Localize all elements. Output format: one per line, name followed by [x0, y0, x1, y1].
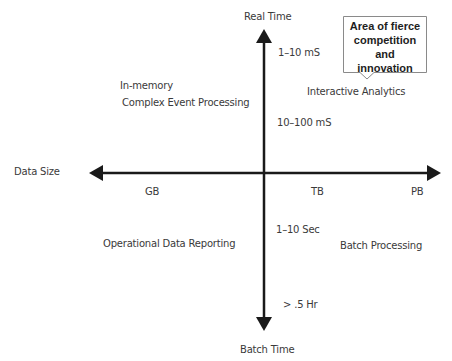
x-tick-pb: PB: [411, 186, 424, 197]
quadrant-top-left-line1: In-memory: [120, 80, 173, 91]
y-tick-half-hour: > .5 Hr: [283, 299, 318, 310]
y-tick-1-10ms: 1–10 mS: [278, 47, 320, 58]
quadrant-bottom-right: Batch Processing: [340, 240, 422, 251]
x-axis-left-arrow-icon: [89, 165, 103, 181]
quadrant-top-left-line2: Complex Event Processing: [122, 97, 249, 108]
x-axis-label: Data Size: [14, 166, 60, 177]
callout-line-2: competition and: [343, 33, 427, 61]
y-tick-1-10sec: 1–10 Sec: [276, 224, 320, 235]
x-tick-gb: GB: [145, 186, 159, 197]
y-axis-top-label: Real Time: [244, 11, 291, 22]
x-tick-tb: TB: [311, 186, 324, 197]
y-axis-up-arrow-icon: [256, 29, 272, 43]
y-tick-10-100ms: 10–100 mS: [277, 117, 331, 128]
quadrant-top-right: Interactive Analytics: [307, 86, 405, 97]
quadrant-bottom-left: Operational Data Reporting: [103, 238, 235, 249]
callout-text: Area of fierce competition and innovatio…: [343, 19, 427, 75]
y-axis-bottom-label: Batch Time: [240, 344, 294, 355]
x-axis-right-arrow-icon: [427, 165, 441, 181]
callout-line-1: Area of fierce: [343, 19, 427, 33]
callout-line-3: innovation: [343, 61, 427, 75]
y-axis-down-arrow-icon: [256, 317, 272, 331]
